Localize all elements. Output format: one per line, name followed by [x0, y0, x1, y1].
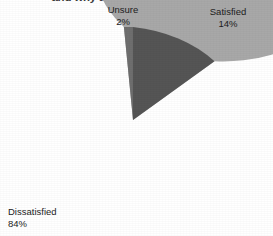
pie-label-satisfied-value: 14% [190, 18, 266, 30]
pie-label-dissatisfied: Dissatisfied 84% [8, 206, 116, 229]
pie-label-dissatisfied-value: 84% [8, 218, 116, 230]
pie-svg [0, 0, 273, 236]
pie-chart-figure: and why are leaders struggling? Unsure 2… [0, 0, 273, 236]
pie-label-satisfied-name: Satisfied [190, 6, 266, 18]
pie-label-dissatisfied-name: Dissatisfied [8, 206, 116, 218]
pie-label-unsure-value: 2% [87, 16, 159, 28]
pie-label-unsure-name: Unsure [87, 4, 159, 16]
pie-label-satisfied: Satisfied 14% [190, 6, 266, 29]
pie-label-unsure: Unsure 2% [87, 4, 159, 27]
pie-slice-unsure[interactable] [124, 27, 133, 120]
